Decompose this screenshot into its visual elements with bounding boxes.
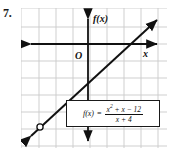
formula-numerator: x2 + x − 12 <box>105 103 144 114</box>
formula-equals-sign: = <box>96 110 103 118</box>
formula-function-label: f(x) <box>83 110 94 118</box>
coordinate-graph: f(x) x O <box>21 8 167 148</box>
exercise-figure-panel: 7. <box>0 0 169 151</box>
problem-number: 7. <box>3 6 12 21</box>
origin-label: O <box>75 50 82 61</box>
formula-fraction: x2 + x − 12 x + 4 <box>105 103 144 125</box>
formula-expression: f(x) = x2 + x − 12 x + 4 <box>83 103 143 125</box>
formula-denominator: x + 4 <box>114 116 134 125</box>
hole-open-circle <box>37 124 43 130</box>
numerator-rest: + x − 12 <box>113 104 141 113</box>
formula-callout-box: f(x) = x2 + x − 12 x + 4 <box>66 100 160 127</box>
x-axis-label: x <box>142 48 148 59</box>
y-axis-label: f(x) <box>93 13 108 25</box>
